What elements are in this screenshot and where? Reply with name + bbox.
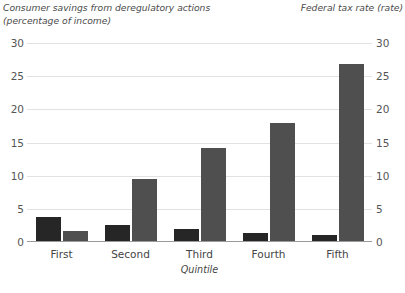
left-tick-label: 30 [2, 38, 24, 49]
left-tick-label: 25 [2, 71, 24, 82]
bar-groups [27, 43, 372, 242]
left-tick-label: 10 [2, 171, 24, 182]
left-axis-title: Consumer savings from deregulatory actio… [3, 2, 210, 27]
bar-federal-tax-rate[interactable] [132, 179, 157, 242]
category-label: Fourth [234, 248, 303, 260]
left-tick-label: 20 [2, 104, 24, 115]
bar-consumer-savings[interactable] [36, 217, 61, 242]
right-axis-title: Federal tax rate (rate) [301, 2, 403, 15]
category-label: Third [165, 248, 234, 260]
right-axis-ticks: 302520151050 [376, 43, 402, 242]
right-tick-label: 5 [376, 204, 400, 215]
bar-group [234, 43, 303, 242]
right-tick-label: 25 [376, 71, 400, 82]
plot-area [27, 43, 372, 242]
left-axis-ticks: 302520151050 [0, 43, 24, 242]
right-tick-label: 0 [376, 237, 400, 248]
right-tick-label: 10 [376, 171, 400, 182]
bar-group [303, 43, 372, 242]
category-label: Fifth [303, 248, 372, 260]
left-tick-label: 5 [2, 204, 24, 215]
category-label: Second [96, 248, 165, 260]
right-tick-label: 30 [376, 38, 400, 49]
bar-federal-tax-rate[interactable] [339, 64, 364, 242]
bar-group [27, 43, 96, 242]
category-label: First [27, 248, 96, 260]
category-labels: FirstSecondThirdFourthFifth [27, 248, 372, 260]
left-tick-label: 15 [2, 138, 24, 149]
right-tick-label: 20 [376, 104, 400, 115]
x-axis-line [27, 241, 372, 243]
bar-group [165, 43, 234, 242]
bar-federal-tax-rate[interactable] [201, 148, 226, 242]
right-tick-label: 15 [376, 138, 400, 149]
x-axis-label: Quintile [27, 264, 372, 275]
bar-federal-tax-rate[interactable] [270, 123, 295, 242]
bar-group [96, 43, 165, 242]
left-tick-label: 0 [2, 237, 24, 248]
bar-chart: Consumer savings from deregulatory actio… [0, 0, 405, 293]
bar-consumer-savings[interactable] [105, 225, 130, 242]
